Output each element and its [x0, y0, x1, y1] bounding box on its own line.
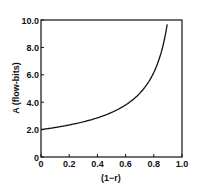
x-tick-label: 0.2: [63, 159, 76, 169]
x-tick-label: 1.0: [176, 159, 189, 169]
y-tick-label: 8.0: [26, 43, 39, 53]
y-tick-label: 10.0: [21, 16, 39, 26]
series-line: [41, 24, 167, 129]
x-tick-label: 0: [38, 159, 43, 169]
x-axis: 00.20.40.60.81.0: [38, 154, 188, 169]
x-axis-label: (1−r): [101, 173, 121, 183]
chart: 02.04.06.08.010.0 00.20.40.60.81.0 A (fl…: [0, 0, 200, 187]
x-tick-label: 0.8: [148, 159, 161, 169]
y-axis-label: A (flow-bits): [11, 62, 21, 114]
y-tick-label: 2.0: [26, 125, 39, 135]
plot-frame: [41, 20, 182, 157]
y-tick-label: 6.0: [26, 70, 39, 80]
x-tick-label: 0.6: [119, 159, 132, 169]
x-tick-label: 0.4: [91, 159, 104, 169]
y-tick-label: 4.0: [26, 98, 39, 108]
